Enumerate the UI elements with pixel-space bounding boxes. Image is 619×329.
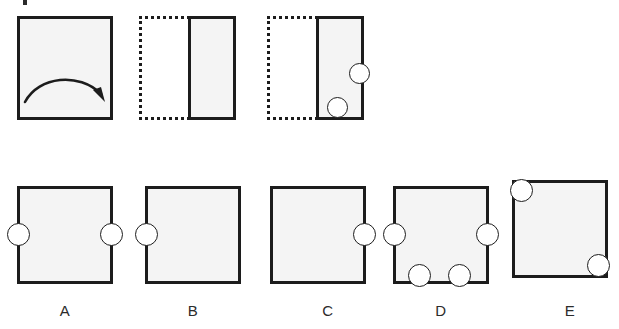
option-b[interactable]: B <box>124 180 254 329</box>
hole-left-edge <box>135 223 158 246</box>
option-sheet-outline <box>270 186 366 284</box>
option-a-label: A <box>45 302 85 320</box>
hole-right-edge <box>353 223 376 246</box>
option-b-label: B <box>173 302 213 320</box>
hole-top-left-corner <box>510 179 533 202</box>
hole-bottom-right <box>448 264 471 287</box>
hole-right-edge <box>100 223 123 246</box>
option-c[interactable]: C <box>254 180 384 329</box>
option-sheet-outline <box>17 186 113 284</box>
paper-folding-puzzle-figure: A B C D E <box>0 0 619 329</box>
option-sheet-outline <box>512 180 608 278</box>
hole-bottom-right-corner <box>587 254 610 277</box>
fold-direction-arrow-icon <box>17 16 113 120</box>
fold-step-2-folded-sheet <box>130 0 260 150</box>
fold-step-3-punched-sheet <box>258 0 388 150</box>
ghost-folded-away-half <box>139 16 190 120</box>
option-e[interactable]: E <box>506 180 619 329</box>
hole-left-edge <box>383 223 406 246</box>
fold-step-1-unfolded-sheet <box>0 0 130 150</box>
option-d-label: D <box>421 302 461 320</box>
punched-hole-bottom-edge <box>327 97 348 118</box>
sheet-outline <box>188 16 236 120</box>
option-e-label: E <box>550 302 590 320</box>
option-a[interactable]: A <box>0 180 124 329</box>
option-sheet-outline <box>393 186 489 284</box>
sheet-outline <box>316 16 364 120</box>
punched-hole-right-edge <box>349 63 370 84</box>
option-c-label: C <box>308 302 348 320</box>
hole-left-edge <box>7 223 30 246</box>
ghost-folded-away-half <box>267 16 318 120</box>
hole-right-edge <box>476 223 499 246</box>
hole-bottom-left <box>408 264 431 287</box>
option-sheet-outline <box>145 186 241 284</box>
option-d[interactable]: D <box>384 180 506 329</box>
